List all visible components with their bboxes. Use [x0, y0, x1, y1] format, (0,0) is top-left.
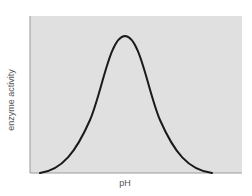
y-axis-label: enzyme activity [6, 65, 16, 135]
chart: enzyme activity pH [0, 0, 252, 196]
chart-canvas [0, 0, 252, 196]
plot-area [30, 16, 242, 173]
x-axis-label: pH [110, 178, 140, 188]
